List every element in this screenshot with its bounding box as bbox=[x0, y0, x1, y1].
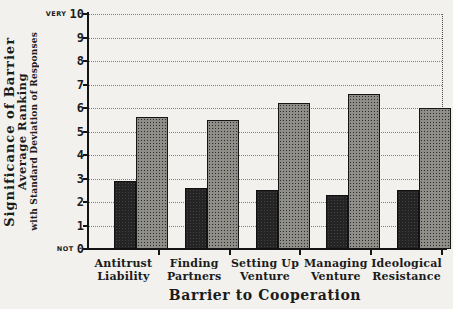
y-tick-mark-6 bbox=[83, 107, 89, 109]
x-tick-mark-5 bbox=[441, 249, 443, 255]
y-tick-mark-5 bbox=[83, 131, 89, 133]
bar-halftone-3 bbox=[278, 103, 310, 249]
y-tick-label-7: 7 bbox=[36, 77, 84, 93]
y-tick-number: 10 bbox=[70, 7, 84, 21]
gridline-7 bbox=[88, 85, 442, 86]
x-tick-mark-4 bbox=[370, 249, 372, 255]
x-tick-mark-2 bbox=[229, 249, 231, 255]
y-tick-label-3: 3 bbox=[36, 171, 84, 187]
y-tick-mark-4 bbox=[83, 154, 89, 156]
y-tick-label-8: 8 bbox=[36, 53, 84, 69]
category-label-line: Partners bbox=[159, 270, 230, 283]
category-label-3: Setting UpVenture bbox=[230, 257, 301, 285]
y-tick-mark-10 bbox=[83, 13, 89, 15]
gridline-6 bbox=[88, 108, 442, 109]
y-axis-tick-labels: NOT0123456789VERY10 bbox=[36, 14, 84, 249]
category-label-line: Managing bbox=[300, 257, 371, 270]
category-label-line: Liability bbox=[88, 270, 159, 283]
y-tick-label-0: NOT0 bbox=[36, 241, 84, 257]
category-label-5: IdeologicalResistance bbox=[371, 257, 442, 285]
y-tick-mark-0 bbox=[83, 248, 89, 250]
category-label-line: Venture bbox=[300, 270, 371, 283]
bar-halftone-4 bbox=[348, 94, 380, 249]
y-tick-label-5: 5 bbox=[36, 124, 84, 140]
category-label-line: Venture bbox=[230, 270, 301, 283]
y-tick-mark-2 bbox=[83, 201, 89, 203]
bar-dark-1 bbox=[114, 181, 136, 249]
category-label-line: Finding bbox=[159, 257, 230, 270]
y-tick-label-9: 9 bbox=[36, 30, 84, 46]
y-tick-label-1: 1 bbox=[36, 218, 84, 234]
y-tick-label-2: 2 bbox=[36, 194, 84, 210]
x-axis-title: Barrier to Cooperation bbox=[88, 287, 442, 303]
y-tick-label-10: VERY10 bbox=[36, 6, 84, 22]
y-tick-mark-8 bbox=[83, 60, 89, 62]
bar-halftone-2 bbox=[207, 120, 239, 249]
y-tick-label-4: 4 bbox=[36, 147, 84, 163]
bar-dark-2 bbox=[185, 188, 207, 249]
category-label-4: ManagingVenture bbox=[300, 257, 371, 285]
category-label-line: Ideological bbox=[371, 257, 442, 270]
y-tick-mark-3 bbox=[83, 178, 89, 180]
category-label-2: FindingPartners bbox=[159, 257, 230, 285]
x-axis-category-labels: AntitrustLiabilityFindingPartnersSetting… bbox=[88, 257, 442, 285]
bar-dark-3 bbox=[256, 190, 278, 249]
category-label-line: Antitrust bbox=[88, 257, 159, 270]
bar-halftone-5 bbox=[419, 108, 451, 249]
y-axis-qualifier: NOT bbox=[57, 245, 74, 253]
y-tick-mark-1 bbox=[83, 225, 89, 227]
y-axis-qualifier: VERY bbox=[46, 10, 67, 18]
category-label-line: Setting Up bbox=[230, 257, 301, 270]
x-tick-mark-1 bbox=[158, 249, 160, 255]
y-tick-mark-7 bbox=[83, 84, 89, 86]
y-tick-label-6: 6 bbox=[36, 100, 84, 116]
x-tick-mark-3 bbox=[299, 249, 301, 255]
y-axis-title-sub: Average Ranking bbox=[17, 73, 29, 190]
bar-halftone-1 bbox=[136, 117, 168, 249]
category-label-1: AntitrustLiability bbox=[88, 257, 159, 285]
bar-dark-5 bbox=[397, 190, 419, 249]
bar-dark-4 bbox=[326, 195, 348, 249]
y-tick-mark-9 bbox=[83, 37, 89, 39]
category-label-line: Resistance bbox=[371, 270, 442, 283]
gridline-8 bbox=[88, 61, 442, 62]
chart: Significance of Barrier Average Ranking … bbox=[0, 0, 453, 309]
gridline-9 bbox=[88, 38, 442, 39]
gridline-10 bbox=[88, 14, 442, 15]
plot-area bbox=[88, 14, 443, 249]
